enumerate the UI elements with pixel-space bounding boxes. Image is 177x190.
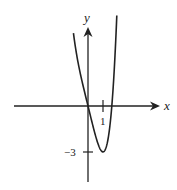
function-graph: x y 1 −3	[0, 0, 177, 190]
x-tick-label-1: 1	[100, 115, 106, 127]
function-curve	[73, 16, 116, 152]
x-axis-label: x	[163, 98, 170, 113]
y-tick-label-neg3: −3	[64, 146, 76, 158]
y-axis-label: y	[82, 10, 90, 25]
